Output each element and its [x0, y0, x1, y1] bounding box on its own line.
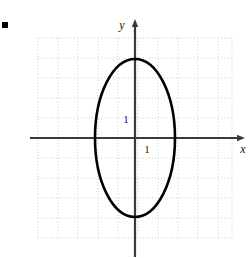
figure-container: 1 1 y x: [0, 0, 251, 258]
y-axis-unit-label: 1: [123, 113, 129, 125]
bullet-marker-icon: [2, 22, 8, 28]
ellipse-graph-figure: 1 1 y x: [0, 0, 251, 258]
x-axis-unit-label: 1: [144, 143, 150, 155]
y-axis-name-label: y: [118, 18, 125, 32]
x-axis-name-label: x: [239, 142, 246, 156]
